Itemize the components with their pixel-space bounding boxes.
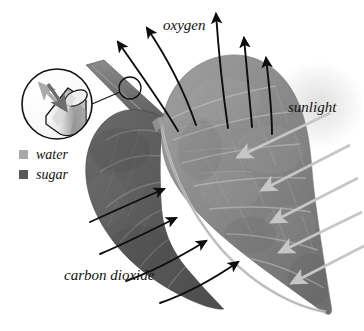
legend-item-sugar: sugar xyxy=(19,166,68,183)
legend-swatch-water xyxy=(19,150,28,159)
legend: water sugar xyxy=(19,146,68,186)
legend-label-water: water xyxy=(36,147,68,163)
label-oxygen: oxygen xyxy=(163,18,205,33)
legend-label-sugar: sugar xyxy=(36,167,68,183)
label-carbon-dioxide: carbon dioxide xyxy=(64,268,154,283)
legend-item-water: water xyxy=(19,146,68,163)
stem-cross-section-inset xyxy=(22,69,92,139)
label-sunlight: sunlight xyxy=(288,100,336,115)
photosynthesis-diagram: oxygen sunlight carbon dioxide water sug… xyxy=(0,0,364,331)
legend-swatch-sugar xyxy=(19,170,28,179)
